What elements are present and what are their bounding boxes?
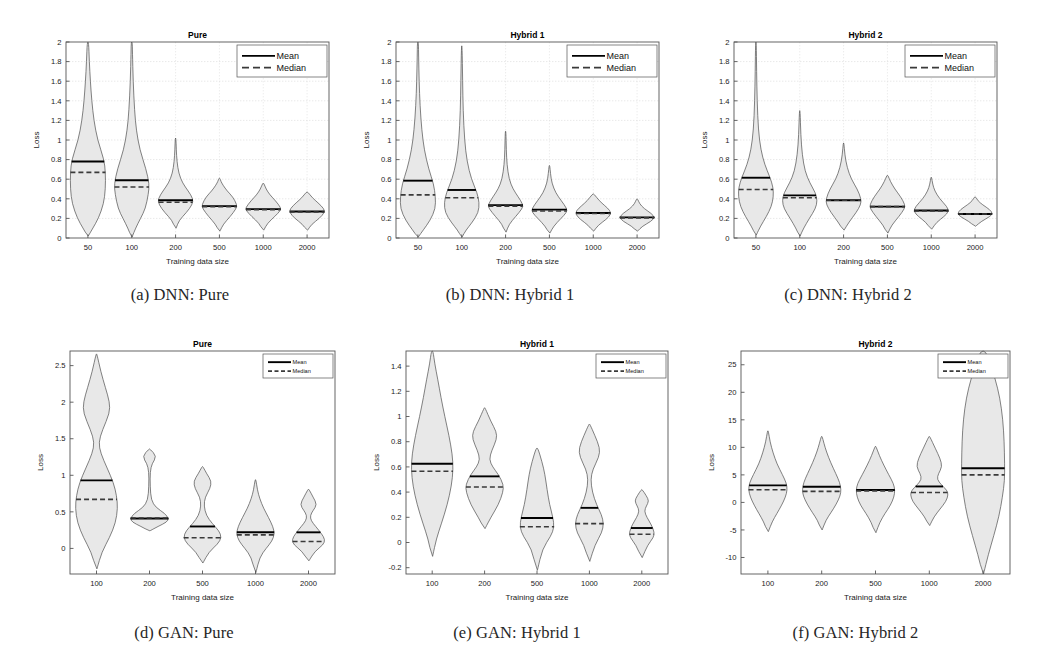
x-tick-label: 1000 <box>585 243 602 252</box>
y-tick-label: 0 <box>61 544 65 553</box>
y-tick-label: 2 <box>725 38 729 47</box>
x-tick-label: 200 <box>478 579 491 588</box>
y-tick-label: 1.2 <box>381 116 392 125</box>
y-tick-label: 0 <box>397 538 401 547</box>
violin-chart-a: 00.20.40.60.811.21.41.61.825010020050010… <box>25 28 335 278</box>
y-tick-label: 2 <box>387 38 391 47</box>
y-tick-label: 0.6 <box>51 175 62 184</box>
x-tick-label: 200 <box>169 243 182 252</box>
y-tick-label: 1.8 <box>51 57 62 66</box>
x-tick-label: 100 <box>90 579 103 588</box>
subcaption-a: (a) DNN: Pure <box>25 285 335 305</box>
panel-e: -0.200.20.40.60.811.21.41002005001000200… <box>358 335 676 620</box>
legend-median-label: Median <box>945 63 975 73</box>
y-tick-label: 1.6 <box>381 77 392 86</box>
x-tick-label: 2000 <box>300 579 317 588</box>
legend: MeanMedian <box>567 45 657 77</box>
y-axis-label: Loss <box>362 132 371 149</box>
y-tick-label: 0.4 <box>381 195 392 204</box>
panel-title: Hybrid 2 <box>848 30 882 40</box>
y-tick-label: 1.8 <box>719 57 730 66</box>
y-tick-label: 0 <box>725 234 729 243</box>
y-tick-label: 1 <box>397 412 401 421</box>
legend: MeanMedian <box>596 354 666 378</box>
y-tick-label: 0 <box>732 498 736 507</box>
x-axis-label: Training data size <box>171 593 234 602</box>
x-tick-label: 1000 <box>255 243 272 252</box>
y-axis-label: Loss <box>700 132 709 149</box>
legend-mean-label: Mean <box>293 359 307 365</box>
x-tick-label: 2000 <box>629 243 646 252</box>
y-tick-label: 0.4 <box>719 195 730 204</box>
y-tick-label: 1.5 <box>55 434 66 443</box>
legend: MeanMedian <box>263 354 333 378</box>
y-tick-label: 1.6 <box>51 77 62 86</box>
y-tick-label: 5 <box>732 471 736 480</box>
x-axis-label: Training data size <box>844 593 907 602</box>
panel-title: Pure <box>193 339 212 349</box>
panel-d: 00.511.522.510020050010002000Training da… <box>25 335 343 620</box>
y-tick-label: 0.2 <box>391 513 402 522</box>
x-tick-label: 2000 <box>967 243 984 252</box>
y-tick-label: 25 <box>728 360 736 369</box>
legend-mean-label: Mean <box>626 359 640 365</box>
x-tick-label: 1000 <box>247 579 264 588</box>
y-tick-label: 0.6 <box>381 175 392 184</box>
legend-median-label: Median <box>293 368 311 374</box>
y-tick-label: -10 <box>726 553 737 562</box>
x-tick-label: 500 <box>543 243 556 252</box>
legend-mean-label: Mean <box>945 51 968 61</box>
x-axis-label: Training data size <box>496 257 559 266</box>
panel-a: 00.20.40.60.811.21.41.61.825010020050010… <box>25 28 335 278</box>
x-tick-label: 200 <box>143 579 156 588</box>
x-tick-label: 1000 <box>923 243 940 252</box>
panel-title: Hybrid 1 <box>510 30 544 40</box>
y-tick-label: 1.4 <box>381 97 392 106</box>
legend-mean-label: Mean <box>968 359 982 365</box>
legend: MeanMedian <box>237 45 327 77</box>
y-tick-label: 1 <box>725 136 729 145</box>
y-tick-label: 2 <box>61 398 65 407</box>
y-tick-label: 10 <box>728 443 736 452</box>
legend-median-label: Median <box>968 368 986 374</box>
panel-c: 00.20.40.60.811.21.41.61.825010020050010… <box>693 28 1003 278</box>
panel-title: Pure <box>188 30 207 40</box>
x-tick-label: 2000 <box>633 579 650 588</box>
y-tick-label: 15 <box>728 416 736 425</box>
y-tick-label: 0 <box>387 234 391 243</box>
y-axis-label: Loss <box>36 454 45 471</box>
violin-plot-figure: 00.20.40.60.811.21.41.61.825010020050010… <box>0 0 1046 672</box>
y-tick-label: 1.8 <box>381 57 392 66</box>
y-axis-label: Loss <box>372 454 381 471</box>
subcaption-e: (e) GAN: Hybrid 1 <box>358 623 676 643</box>
subcaption-d: (d) GAN: Pure <box>25 623 343 643</box>
violin-chart-f: -10-5051015202510020050010002000Training… <box>693 335 1018 620</box>
y-tick-label: -5 <box>730 526 737 535</box>
legend-mean-label: Mean <box>607 51 630 61</box>
y-tick-label: 2 <box>57 38 61 47</box>
y-tick-label: 0.4 <box>51 195 62 204</box>
y-tick-label: 1.2 <box>51 116 62 125</box>
y-axis-label: Loss <box>32 132 41 149</box>
subcaption-c: (c) DNN: Hybrid 2 <box>693 285 1003 305</box>
x-tick-label: 200 <box>499 243 512 252</box>
y-tick-label: 1 <box>57 136 61 145</box>
legend-mean-label: Mean <box>277 51 300 61</box>
violin-chart-b: 00.20.40.60.811.21.41.61.825010020050010… <box>355 28 665 278</box>
y-tick-label: 1.4 <box>51 97 62 106</box>
x-axis-label: Training data size <box>834 257 897 266</box>
x-tick-label: 1000 <box>581 579 598 588</box>
y-tick-label: 0.6 <box>391 463 402 472</box>
y-tick-label: 0.5 <box>55 508 66 517</box>
panel-title: Hybrid 2 <box>858 339 892 349</box>
y-tick-label: 2.5 <box>55 361 66 370</box>
y-tick-label: 0.4 <box>391 488 402 497</box>
x-tick-label: 500 <box>196 579 209 588</box>
y-tick-label: 0.2 <box>51 214 62 223</box>
y-tick-label: 0.2 <box>381 214 392 223</box>
violin-chart-c: 00.20.40.60.811.21.41.61.825010020050010… <box>693 28 1003 278</box>
y-tick-label: 0.6 <box>719 175 730 184</box>
violin-chart-d: 00.511.522.510020050010002000Training da… <box>25 335 343 620</box>
legend: MeanMedian <box>938 354 1008 378</box>
y-tick-label: 0 <box>57 234 61 243</box>
